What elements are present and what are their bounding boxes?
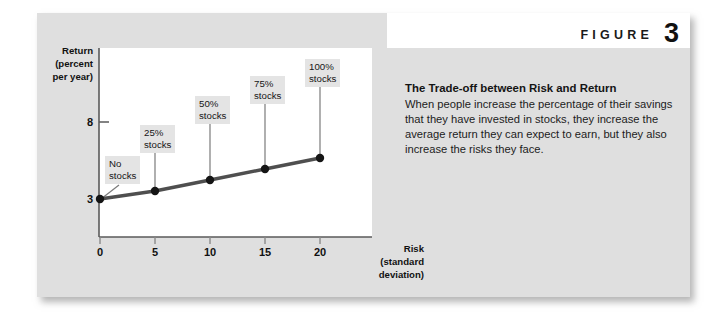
y-tick-label-8: 8 bbox=[73, 116, 93, 128]
callout-75-stocks: 75% stocks bbox=[250, 76, 285, 104]
y-axis-title-line-1: Return bbox=[37, 44, 93, 57]
x-axis-title-line-3: deviation) bbox=[332, 268, 424, 281]
data-point-20 bbox=[316, 154, 324, 162]
y-axis-title-line-3: per year) bbox=[37, 70, 93, 83]
data-point-0 bbox=[96, 195, 104, 203]
figure-header: FIGURE 3 bbox=[387, 17, 679, 47]
x-tick-label-0: 0 bbox=[88, 246, 112, 258]
x-tick-label-15: 15 bbox=[253, 246, 277, 258]
callout-no-stocks: No stocks bbox=[105, 156, 140, 184]
callout-50-stocks: 50% stocks bbox=[195, 96, 230, 124]
caption-block: The Trade-off between Risk and Return Wh… bbox=[405, 81, 673, 157]
callout-100-stocks: 100% stocks bbox=[305, 59, 340, 87]
figure-number: 3 bbox=[664, 20, 679, 47]
caption-title: The Trade-off between Risk and Return bbox=[405, 81, 673, 96]
y-axis-title-line-2: (percent bbox=[37, 57, 93, 70]
data-point-5 bbox=[151, 187, 159, 195]
caption-body: When people increase the percentage of t… bbox=[405, 97, 673, 157]
x-axis-title-line-1: Risk bbox=[332, 242, 424, 255]
x-tick-label-5: 5 bbox=[143, 246, 167, 258]
x-tick-label-10: 10 bbox=[198, 246, 222, 258]
y-tick-label-3: 3 bbox=[73, 193, 93, 205]
y-axis-title: Return (percent per year) bbox=[37, 44, 93, 83]
x-axis-title-line-2: (standard bbox=[332, 255, 424, 268]
figure-label: FIGURE bbox=[581, 28, 653, 42]
x-axis-title: Risk (standard deviation) bbox=[332, 242, 424, 281]
data-point-15 bbox=[261, 165, 269, 173]
x-tick-label-20: 20 bbox=[308, 246, 332, 258]
data-point-10 bbox=[206, 176, 214, 184]
callout-25-stocks: 25% stocks bbox=[140, 125, 175, 153]
figure-panel: Return (percent per year) Risk (standard… bbox=[37, 13, 690, 297]
